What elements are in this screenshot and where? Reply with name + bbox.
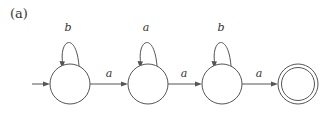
edge-q2-q3: a <box>242 67 278 87</box>
transition-label: a <box>143 21 150 34</box>
state-q0-initial <box>50 64 90 104</box>
state-q3-accepting <box>278 64 318 104</box>
edge-q0-q1: a <box>90 67 128 87</box>
transition-label: a <box>181 67 188 80</box>
self-loop-q0: b <box>60 21 80 68</box>
transition-label: b <box>64 21 71 34</box>
state-q2 <box>202 64 242 104</box>
self-loop-q1: a <box>138 21 158 68</box>
edge-q1-q2: a <box>168 67 202 87</box>
transition-label: b <box>217 21 224 34</box>
figure-caption: (a) <box>10 6 28 21</box>
transition-label: a <box>106 67 113 80</box>
automaton-diagram: (a) b a b a a a <box>0 0 331 113</box>
self-loop-q2: b <box>212 21 232 68</box>
start-arrow <box>32 82 50 87</box>
state-q1 <box>128 64 168 104</box>
transition-label: a <box>256 67 263 80</box>
